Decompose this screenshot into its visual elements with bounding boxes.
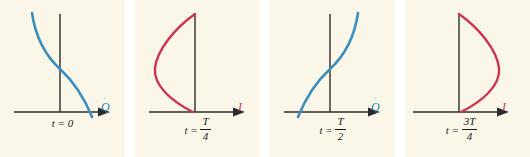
x-axis-arrowhead — [368, 108, 380, 117]
waveform-figure: Q˙ t = 0 I t = T 4 — [0, 0, 530, 157]
current-curve — [155, 14, 195, 112]
panel-gap-3 — [395, 0, 405, 157]
x-axis-arrowhead — [98, 108, 110, 117]
panel-2-plot — [135, 0, 260, 157]
panel-gap-2 — [260, 0, 270, 157]
x-axis-arrowhead — [497, 108, 509, 117]
panel-current-tT4: I t = T 4 — [135, 0, 260, 157]
current-curve — [459, 14, 499, 112]
panel-3-plot — [270, 0, 395, 157]
panel-charge-tT2: Q˙ t = T 2 — [270, 0, 395, 157]
panel-current-t3T4: I t = 3T 4 — [405, 0, 530, 157]
panel-4-plot — [405, 0, 530, 157]
panel-1-plot — [0, 0, 125, 157]
charge-curve — [298, 13, 358, 117]
panel-charge-t0: Q˙ t = 0 — [0, 0, 125, 157]
x-axis-arrowhead — [233, 108, 245, 117]
charge-curve — [32, 13, 92, 117]
panel-gap-1 — [125, 0, 135, 157]
